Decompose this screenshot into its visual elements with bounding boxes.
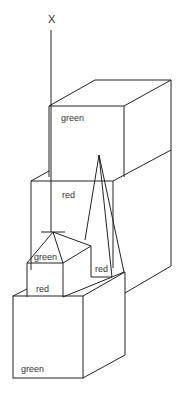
x-axis-label: X — [48, 14, 55, 24]
top-box — [49, 80, 171, 266]
small-roof-label: green — [34, 252, 57, 262]
block-diagram — [0, 0, 185, 396]
bottom-box — [13, 272, 125, 378]
top-box-label: green — [61, 113, 84, 123]
middle-box-label: red — [62, 190, 75, 200]
pyramid-base-label: red — [95, 264, 108, 274]
bottom-box-label: green — [21, 364, 44, 374]
small-box-label: red — [36, 284, 49, 294]
